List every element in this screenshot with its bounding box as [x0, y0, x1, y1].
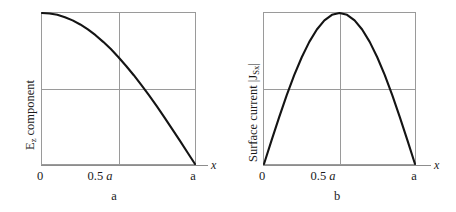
x-tick-half-variable-a: a	[106, 169, 112, 183]
x-tick-half-variable-b: a	[329, 169, 335, 183]
panel-a: x 0 0.5 a a Ez component a	[0, 0, 228, 212]
figure-two-panel-waveguide-field-plots: x 0 0.5 a a Ez component a x 0 0.5 a a S…	[0, 0, 456, 212]
y-axis-label-a-rest: component	[23, 80, 37, 139]
plot-frame-a	[41, 12, 196, 165]
x-tick-half-number-b: 0.5	[311, 169, 330, 183]
panel-caption-a: a	[111, 190, 117, 203]
y-axis-label-b: Surface current |JSx|	[247, 63, 260, 162]
x-tick-0-a: 0	[37, 170, 43, 183]
x-tick-half-a: 0.5 a	[88, 170, 113, 183]
x-tick-half-number-a: 0.5	[88, 169, 107, 183]
panel-caption-b: b	[334, 190, 340, 203]
y-axis-label-b-subscript: Sx	[251, 66, 261, 75]
curve-ez-component	[42, 13, 195, 164]
y-axis-label-a-main: E	[23, 142, 37, 150]
curve-surface-current	[264, 13, 415, 164]
plot-frame-b	[263, 12, 416, 165]
y-axis-label-a: Ez component	[24, 80, 37, 150]
x-axis-label-b: x	[434, 159, 439, 171]
x-tick-0-b: 0	[259, 170, 265, 183]
y-axis-label-b-main: Surface current |J	[246, 75, 260, 162]
x-axis-line-a	[41, 165, 208, 166]
x-tick-half-b: 0.5 a	[311, 170, 336, 183]
y-axis-label-a-subscript: z	[28, 139, 38, 143]
x-tick-end-a: a	[190, 170, 196, 183]
panel-b: x 0 0.5 a a Surface current |JSx| b	[228, 0, 456, 212]
x-tick-end-b: a	[411, 170, 417, 183]
x-axis-line-b	[263, 165, 431, 166]
x-axis-label-a: x	[211, 159, 216, 171]
